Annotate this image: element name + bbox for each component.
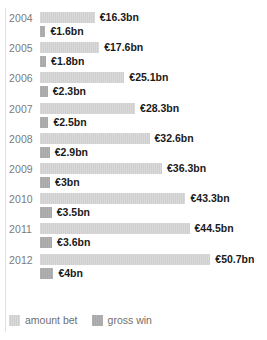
value-label-gross-win: €2.9bn xyxy=(50,147,88,159)
year-label: 2010 xyxy=(9,193,37,206)
year-label: 2007 xyxy=(9,103,37,116)
bar-amount-bet[interactable] xyxy=(40,133,150,144)
value-label-gross-win: €2.3bn xyxy=(48,86,86,98)
bar-amount-bet[interactable] xyxy=(40,223,190,234)
bar-line-gross-win: €3.5bn xyxy=(40,207,90,218)
chart-row: 2004€16.3bn€1.6bn xyxy=(0,11,267,41)
bar-line-gross-win: €1.6bn xyxy=(40,26,84,37)
bar-line-gross-win: €2.9bn xyxy=(40,147,88,158)
chart-row: 2005€17.6bn€1.8bn xyxy=(0,41,267,71)
value-label-gross-win: €3.5bn xyxy=(52,207,90,219)
year-label: 2008 xyxy=(9,133,37,146)
value-label-amount-bet: €50.7bn xyxy=(210,254,254,266)
bar-amount-bet[interactable] xyxy=(40,163,162,174)
bar-line-gross-win: €1.8bn xyxy=(40,56,84,67)
year-label: 2011 xyxy=(9,223,37,236)
bar-line-amount-bet: €17.6bn xyxy=(40,42,143,53)
bar-chart: 2004€16.3bn€1.6bn2005€17.6bn€1.8bn2006€2… xyxy=(0,0,267,340)
year-label: 2004 xyxy=(9,12,37,25)
chart-row: 2008€32.6bn€2.9bn xyxy=(0,132,267,162)
bar-amount-bet[interactable] xyxy=(40,103,135,114)
chart-row: 2007€28.3bn€2.5bn xyxy=(0,102,267,132)
value-label-amount-bet: €25.1bn xyxy=(124,72,168,84)
legend-item-amount-bet[interactable]: amount bet xyxy=(9,314,78,326)
value-label-amount-bet: €36.3bn xyxy=(162,163,206,175)
legend-swatch-amount-bet xyxy=(9,315,20,326)
value-label-amount-bet: €32.6bn xyxy=(150,133,194,145)
year-label: 2009 xyxy=(9,163,37,176)
cropped-title-sliver xyxy=(30,0,180,4)
bar-line-gross-win: €2.3bn xyxy=(40,86,86,97)
bar-line-gross-win: €3bn xyxy=(40,177,80,188)
bar-line-gross-win: €4bn xyxy=(40,268,83,279)
bar-amount-bet[interactable] xyxy=(40,72,124,83)
bar-line-amount-bet: €43.3bn xyxy=(40,193,230,204)
bar-amount-bet[interactable] xyxy=(40,193,185,204)
legend-label-amount-bet: amount bet xyxy=(25,314,78,326)
legend-item-gross-win[interactable]: gross win xyxy=(92,314,152,326)
value-label-gross-win: €1.8bn xyxy=(46,56,84,68)
value-label-amount-bet: €44.5bn xyxy=(190,223,234,235)
bar-gross-win[interactable] xyxy=(40,207,52,218)
bar-line-amount-bet: €36.3bn xyxy=(40,163,206,174)
value-label-gross-win: €2.5bn xyxy=(48,117,86,129)
value-label-gross-win: €4bn xyxy=(53,268,83,280)
chart-legend: amount bet gross win xyxy=(9,314,152,326)
bar-gross-win[interactable] xyxy=(40,177,50,188)
value-label-amount-bet: €43.3bn xyxy=(185,193,229,205)
value-label-gross-win: €3.6bn xyxy=(52,237,90,249)
bar-gross-win[interactable] xyxy=(40,237,52,248)
value-label-amount-bet: €16.3bn xyxy=(95,12,139,24)
bar-gross-win[interactable] xyxy=(40,117,48,128)
legend-label-gross-win: gross win xyxy=(108,314,152,326)
bar-amount-bet[interactable] xyxy=(40,42,99,53)
chart-row: 2010€43.3bn€3.5bn xyxy=(0,192,267,222)
value-label-gross-win: €1.6bn xyxy=(45,26,83,38)
chart-row: 2009€36.3bn€3bn xyxy=(0,162,267,192)
year-label: 2012 xyxy=(9,254,37,267)
year-label: 2006 xyxy=(9,72,37,85)
legend-swatch-gross-win xyxy=(92,315,103,326)
bar-line-amount-bet: €50.7bn xyxy=(40,254,254,265)
chart-row: 2012€50.7bn€4bn xyxy=(0,253,267,283)
value-label-amount-bet: €28.3bn xyxy=(135,103,179,115)
bar-line-amount-bet: €28.3bn xyxy=(40,103,179,114)
bar-line-amount-bet: €25.1bn xyxy=(40,72,168,83)
value-label-gross-win: €3bn xyxy=(50,177,80,189)
bar-line-amount-bet: €44.5bn xyxy=(40,223,234,234)
bar-amount-bet[interactable] xyxy=(40,254,210,265)
chart-row: 2011€44.5bn€3.6bn xyxy=(0,222,267,252)
bar-gross-win[interactable] xyxy=(40,147,50,158)
value-label-amount-bet: €17.6bn xyxy=(99,42,143,54)
bar-gross-win[interactable] xyxy=(40,268,53,279)
year-label: 2005 xyxy=(9,42,37,55)
bar-amount-bet[interactable] xyxy=(40,12,95,23)
bar-gross-win[interactable] xyxy=(40,86,48,97)
chart-row: 2006€25.1bn€2.3bn xyxy=(0,71,267,101)
bar-line-amount-bet: €32.6bn xyxy=(40,133,194,144)
plot-area: 2004€16.3bn€1.6bn2005€17.6bn€1.8bn2006€2… xyxy=(0,11,267,283)
bar-line-amount-bet: €16.3bn xyxy=(40,12,139,23)
bar-line-gross-win: €3.6bn xyxy=(40,237,90,248)
bar-line-gross-win: €2.5bn xyxy=(40,117,87,128)
